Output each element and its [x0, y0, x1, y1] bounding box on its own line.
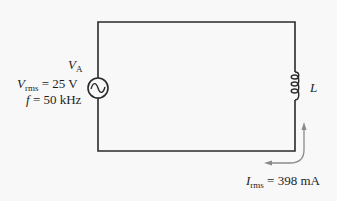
circuit-diagram: VA Vrms = 25 V f = 50 kHz L Irms = 398 m…: [0, 0, 337, 201]
source-name-label: VA: [68, 58, 82, 74]
current-label: Irms = 398 mA: [246, 174, 320, 190]
inductor-label: L: [310, 81, 317, 94]
inductor-icon: [291, 72, 299, 100]
ac-source-icon: [88, 78, 108, 98]
current-arrow-icon: [264, 122, 307, 166]
source-vrms-label: Vrms = 25 V: [17, 77, 78, 93]
source-frequency-label: f = 50 kHz: [26, 93, 81, 106]
wire-loop: [98, 22, 295, 151]
